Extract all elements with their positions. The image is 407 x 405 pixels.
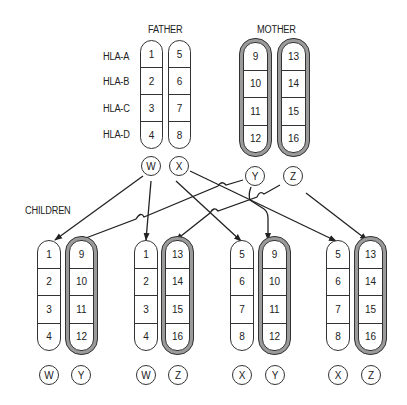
allele: 16 [166,323,189,351]
allele: 4 [141,121,162,148]
allele: 1 [135,241,157,268]
child-1-label-y: Y [71,365,91,385]
allele: 8 [169,121,190,148]
allele: 2 [135,268,157,296]
child-1-label-w: W [39,365,59,385]
child-4-label-z: Z [361,365,381,385]
child-3-maternal-y: 9 10 11 12 [258,236,291,355]
child-2-maternal-z: 13 14 15 16 [161,236,194,355]
haplotype-label-x: X [169,156,189,176]
allele: 10 [244,70,267,98]
allele: 7 [169,94,190,121]
allele: 12 [70,323,93,351]
child-2-label-w: W [136,365,156,385]
allele: 2 [141,67,162,94]
allele: 8 [327,323,349,351]
allele: 6 [169,67,190,94]
allele: 3 [141,94,162,121]
allele: 13 [166,241,189,268]
allele: 16 [359,323,382,351]
allele: 3 [38,295,60,323]
allele: 14 [359,268,382,296]
child-4-paternal-x: 5 6 7 8 [326,240,350,351]
allele: 14 [282,70,305,98]
allele: 11 [244,97,267,125]
allele: 15 [359,295,382,323]
allele: 4 [38,323,60,351]
child-4-label-x: X [328,365,348,385]
allele: 6 [231,268,253,296]
allele: 10 [263,268,286,296]
child-1-maternal-y: 9 10 11 12 [65,236,98,355]
child-2-label-z: Z [168,365,188,385]
allele: 8 [231,323,253,351]
allele: 12 [263,323,286,351]
allele: 7 [327,295,349,323]
allele: 9 [244,43,267,70]
allele: 13 [359,241,382,268]
child-3-label-y: Y [265,365,285,385]
allele: 5 [231,241,253,268]
allele: 16 [282,125,305,153]
child-2-paternal-w: 1 2 3 4 [134,240,158,351]
allele: 9 [263,241,286,268]
allele: 12 [244,125,267,153]
allele: 10 [70,268,93,296]
mother-haplotype-y: 9 10 11 12 [239,38,272,157]
child-4-maternal-z: 13 14 15 16 [354,236,387,355]
allele: 3 [135,295,157,323]
allele: 1 [38,241,60,268]
allele: 7 [231,295,253,323]
allele: 14 [166,268,189,296]
allele: 11 [263,295,286,323]
mother-haplotype-z: 13 14 15 16 [277,38,310,157]
child-3-label-x: X [232,365,252,385]
father-haplotype-x: 5 6 7 8 [168,40,191,149]
allele: 15 [166,295,189,323]
haplotype-label-y: Y [245,166,265,186]
haplotype-label-z: Z [283,166,303,186]
allele: 11 [70,295,93,323]
allele: 5 [169,41,190,67]
allele: 1 [141,41,162,67]
child-1-paternal-w: 1 2 3 4 [37,240,61,351]
allele: 9 [70,241,93,268]
father-haplotype-w: 1 2 3 4 [140,40,163,149]
allele: 4 [135,323,157,351]
allele: 13 [282,43,305,70]
allele: 2 [38,268,60,296]
haplotype-label-w: W [141,156,161,176]
allele: 15 [282,97,305,125]
allele: 5 [327,241,349,268]
child-3-paternal-x: 5 6 7 8 [230,240,254,351]
allele: 6 [327,268,349,296]
